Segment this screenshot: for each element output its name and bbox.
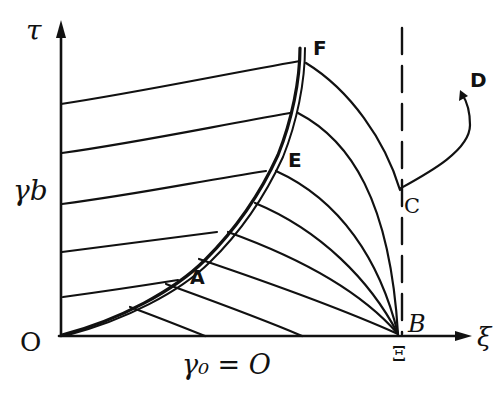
point-b-label: B	[407, 310, 426, 338]
point-c-label: C	[404, 194, 420, 218]
arrow-to-d	[401, 90, 470, 188]
characteristics-diagram: τ ξ O γb Ξ γ₀ = O A B C D E F	[0, 0, 499, 394]
point-d-label: D	[470, 68, 487, 92]
point-f-label: F	[313, 36, 327, 60]
d-arrowhead-icon	[459, 90, 468, 101]
xi-axis-arrow-icon	[455, 331, 472, 341]
gamma0-label: γ₀ = O	[182, 349, 271, 380]
origin-label: O	[20, 327, 41, 357]
gamma-b-label: γb	[13, 174, 48, 207]
tau-axis-label: τ	[26, 14, 42, 47]
point-a-label: A	[190, 266, 205, 288]
tau-axis-arrow-icon	[56, 20, 66, 38]
point-e-label: E	[288, 148, 302, 172]
fan-characteristics	[130, 63, 400, 336]
xi-axis-label: ξ	[477, 322, 493, 352]
xi-marker-label: Ξ	[392, 342, 406, 366]
